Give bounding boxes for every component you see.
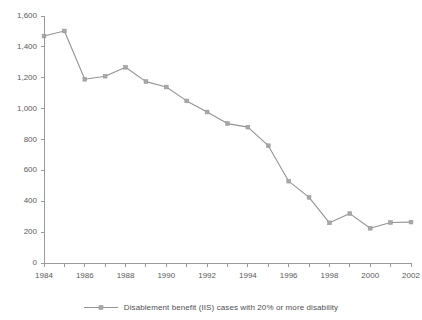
- data-point-marker: [348, 212, 352, 216]
- data-point-marker: [266, 144, 270, 148]
- data-point-marker: [287, 179, 291, 183]
- line-chart: 02004006008001,0001,2001,4001,600 198419…: [0, 0, 422, 320]
- data-point-marker: [389, 221, 393, 225]
- series-line-disablement-benefit: [44, 31, 411, 228]
- data-point-marker: [164, 85, 168, 89]
- y-axis-tick-label: 0: [33, 258, 38, 267]
- y-axis-tick-label: 400: [24, 196, 38, 205]
- y-axis-tick-label: 600: [24, 165, 38, 174]
- y-axis-tick-labels: 02004006008001,0001,2001,4001,600: [17, 11, 38, 267]
- data-point-marker: [144, 80, 148, 84]
- data-point-marker: [409, 220, 413, 224]
- data-point-marker: [307, 195, 311, 199]
- x-axis-tick-label: 1992: [198, 271, 216, 280]
- data-point-marker: [103, 74, 107, 78]
- x-axis-tick-label: 1996: [280, 271, 298, 280]
- chart-legend: Disablement benefit (IIS) cases with 20%…: [0, 303, 422, 312]
- y-axis-tick-label: 1,200: [17, 73, 38, 82]
- legend-entry-label: Disablement benefit (IIS) cases with 20%…: [124, 303, 338, 312]
- x-axis-tick-label: 1986: [76, 271, 94, 280]
- y-axis-tick-label: 1,600: [17, 11, 38, 20]
- series-data-point-markers: [42, 29, 413, 230]
- data-point-marker: [124, 65, 128, 69]
- x-axis-tick-label: 1994: [239, 271, 257, 280]
- x-axis-tick-label: 1984: [35, 271, 53, 280]
- data-point-marker: [42, 34, 46, 38]
- data-point-marker: [62, 29, 66, 33]
- x-axis-tick-label: 2002: [402, 271, 420, 280]
- data-point-marker: [328, 221, 332, 225]
- x-axis-tick-label: 1998: [321, 271, 339, 280]
- data-point-marker: [226, 122, 230, 126]
- y-axis-tick-label: 200: [24, 227, 38, 236]
- x-axis-tick-marks: [44, 263, 411, 267]
- data-point-marker: [185, 99, 189, 103]
- x-axis-tick-label: 1988: [117, 271, 135, 280]
- data-point-marker: [368, 226, 372, 230]
- data-point-marker: [246, 125, 250, 129]
- x-axis-tick-label: 2000: [361, 271, 379, 280]
- y-axis-tick-label: 1,000: [17, 104, 38, 113]
- data-point-marker: [205, 110, 209, 114]
- legend-line-swatch-icon: [84, 303, 118, 312]
- chart-plot-area: 02004006008001,0001,2001,4001,600 198419…: [0, 0, 422, 320]
- data-point-marker: [83, 77, 87, 81]
- x-axis-tick-label: 1990: [157, 271, 175, 280]
- y-axis-tick-label: 800: [24, 135, 38, 144]
- x-axis-tick-labels: 1984198619881990199219941996199820002002: [35, 271, 420, 280]
- y-axis-tick-label: 1,400: [17, 42, 38, 51]
